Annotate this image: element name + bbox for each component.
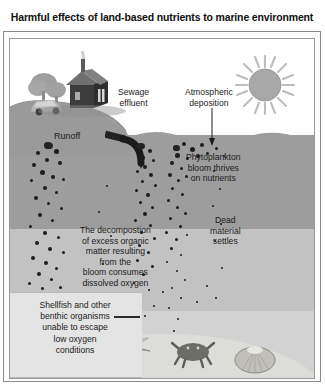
title-divider xyxy=(3,31,321,32)
diagram-scene: /* positioning applied via class below *… xyxy=(9,38,315,379)
label-shellfish: Shellfish and other benthic organisms un… xyxy=(12,300,138,356)
clam-shell-icon-right xyxy=(232,341,278,375)
figure-title-bar: Harmful effects of land-based nutrients … xyxy=(3,2,321,32)
sun-icon xyxy=(234,54,296,116)
page-title: Harmful effects of land-based nutrients … xyxy=(11,11,313,23)
label-dead-material: Dead material settles xyxy=(210,215,241,247)
down-arrow-icon xyxy=(206,108,218,148)
label-phytoplankton-bloom: Phytoplankton bloom thrives on nutrients xyxy=(186,152,240,184)
figure-root: Harmful effects of land-based nutrients … xyxy=(0,0,325,386)
house-icon xyxy=(66,59,108,108)
label-runoff: Runoff xyxy=(54,131,80,142)
crab-icon xyxy=(170,339,216,369)
outfall-pipe-icon xyxy=(105,119,165,179)
label-sewage-effluent-text: Sewage effluent xyxy=(118,87,149,108)
tree-icon xyxy=(28,73,66,105)
label-decomposition: The decompostion of excess organic matte… xyxy=(80,225,151,289)
label-atmospheric-deposition: Atmospheric deposition xyxy=(185,87,233,108)
